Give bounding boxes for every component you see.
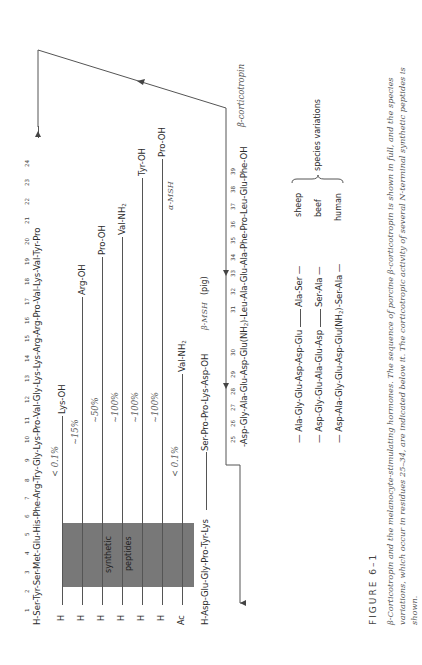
figure-label: FIGURE 6–1 <box>368 553 378 625</box>
species-variations-label: species variations <box>313 99 322 171</box>
figure-caption-line-1: β-Corticotropin and the melanocyte-stimu… <box>384 77 397 625</box>
figure-caption-line-2: variations, which occur in residues 25–3… <box>396 67 409 625</box>
figure-caption-line-3: shown. <box>408 596 421 625</box>
figure-page: 123456789101112131415161718192021222324 … <box>0 0 422 665</box>
species-brace <box>0 0 422 665</box>
